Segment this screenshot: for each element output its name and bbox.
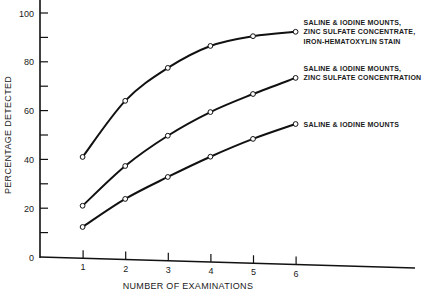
y-tick-label: 60: [24, 106, 34, 116]
y-tick-label: 20: [24, 204, 34, 214]
x-tick-label: 6: [294, 269, 299, 279]
x-axis-line: [40, 257, 415, 268]
data-point: [165, 133, 170, 138]
x-tick-label: 1: [81, 262, 86, 272]
data-point: [208, 154, 213, 159]
data-point: [208, 110, 213, 115]
series-group: [80, 29, 298, 229]
data-point: [80, 155, 85, 160]
data-point: [208, 44, 213, 49]
y-tick-label: 0: [29, 253, 34, 263]
y-tick-label: 100: [19, 9, 34, 19]
x-tick-label: 3: [166, 265, 171, 275]
y-tick-label: 40: [24, 155, 34, 165]
line-chart: 020406080100 123456 SALINE & IODINE MOUN…: [0, 0, 423, 294]
series-label-line: ZINC SULFATE CONCENTRATE,: [304, 28, 416, 36]
y-axis-ticks: 020406080100: [19, 9, 48, 263]
x-tick-label: 5: [251, 267, 256, 277]
data-point: [123, 98, 128, 103]
data-point: [165, 66, 170, 71]
x-axis-ticks: 123456: [81, 250, 299, 278]
x-axis-label: NUMBER OF EXAMINATIONS: [123, 281, 253, 291]
series-label-line: IRON-HEMATOXYLIN STAIN: [304, 38, 401, 45]
data-point: [123, 164, 128, 169]
series-label-line: SALINE & IODINE MOUNTS: [304, 121, 400, 128]
series-line: [83, 32, 296, 157]
data-point: [165, 175, 170, 180]
data-point: [293, 76, 298, 81]
series-labels: SALINE & IODINE MOUNTS,ZINC SULFATE CONC…: [304, 19, 422, 128]
x-tick-label: 4: [208, 266, 213, 276]
data-point: [123, 197, 128, 202]
series-line: [83, 78, 296, 206]
data-point: [251, 34, 256, 39]
series-label-line: ZINC SULFATE CONCENTRATION: [304, 74, 422, 81]
y-tick-label: 80: [24, 57, 34, 67]
x-tick-label: 2: [123, 264, 128, 274]
data-point: [293, 122, 298, 127]
y-axis-label: PERCENTAGE DETECTED: [3, 76, 13, 194]
data-point: [293, 29, 298, 34]
series-label-line: SALINE & IODINE MOUNTS,: [304, 19, 402, 27]
data-point: [251, 137, 256, 142]
data-point: [251, 92, 256, 97]
series-label-line: SALINE & IODINE MOUNTS,: [304, 65, 402, 73]
data-point: [80, 225, 85, 230]
data-point: [80, 203, 85, 208]
